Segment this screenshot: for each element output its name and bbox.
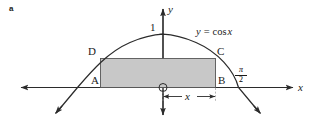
figure-canvas: a y x 1 y=cosx A B C D π 2 x [0, 0, 314, 127]
equation-equals: = [204, 26, 210, 37]
curve-right-arrowhead [254, 106, 261, 114]
pi-over-two-numerator: π [235, 66, 247, 74]
vertex-label-B: B [218, 75, 225, 86]
cosine-rectangle-diagram [0, 0, 314, 127]
y-tick-label-one: 1 [150, 22, 156, 33]
vertex-label-A: A [91, 75, 99, 86]
x-axis-label: x [298, 82, 303, 93]
y-axis-label: y [168, 4, 173, 15]
panel-letter: a [9, 5, 13, 13]
pi-over-two-label: π 2 [235, 66, 247, 85]
pi-over-two-denominator: 2 [235, 76, 247, 84]
curve-left-arrowhead [56, 106, 63, 114]
equation-arg: x [228, 26, 233, 37]
shaded-rectangle-ABCD [101, 59, 216, 88]
dimension-label-x: x [185, 91, 190, 102]
equation-y: y [196, 26, 201, 37]
equation-cos: cos [213, 26, 227, 37]
vertex-label-C: C [217, 46, 224, 57]
curve-equation-label: y=cosx [196, 27, 232, 38]
vertex-label-D: D [88, 46, 96, 57]
